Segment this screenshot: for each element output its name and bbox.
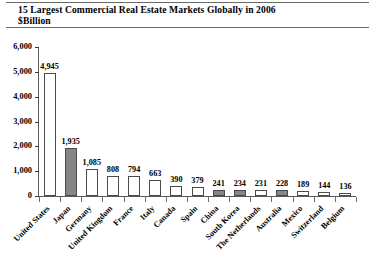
category-tick-mark: [208, 197, 209, 202]
y-axis-tick-mark: [35, 122, 39, 123]
bar: [170, 186, 182, 196]
bar: [65, 148, 77, 196]
bar: [128, 176, 140, 196]
category-label: Spain: [178, 204, 199, 225]
y-axis-tick-label: 0: [0, 192, 32, 200]
x-axis-line: [38, 196, 356, 197]
y-axis-tick-label: 2,000: [0, 142, 32, 150]
category-tick-mark: [335, 197, 336, 202]
category-tick-mark: [187, 197, 188, 202]
category-tick-mark: [60, 197, 61, 202]
category-tick-mark: [271, 197, 272, 202]
bar: [107, 176, 119, 196]
y-axis-tick-label: 5,000: [0, 68, 32, 76]
y-axis-tick-mark: [35, 97, 39, 98]
bar: [318, 192, 330, 196]
category-tick-mark: [102, 197, 103, 202]
y-axis-tick-label: 1,000: [0, 167, 32, 175]
category-label: United States: [12, 204, 51, 243]
category-tick-mark: [81, 197, 82, 202]
y-axis-tick-label: 4,000: [0, 93, 32, 101]
y-axis-tick-mark: [35, 47, 39, 48]
bar: [255, 190, 267, 196]
bar-value-label: 4,945: [33, 62, 67, 71]
category-tick-mark: [39, 197, 40, 202]
y-axis-tick-label: 6,000: [0, 43, 32, 51]
category-tick-mark: [124, 197, 125, 202]
bar: [44, 73, 56, 196]
bar: [213, 190, 225, 196]
y-axis-tick-mark: [35, 146, 39, 147]
bar: [297, 191, 309, 196]
y-axis-tick-label: 3,000: [0, 118, 32, 126]
category-tick-mark: [314, 197, 315, 202]
bar: [234, 190, 246, 196]
category-tick-mark: [356, 197, 357, 202]
category-tick-mark: [229, 197, 230, 202]
category-tick-mark: [166, 197, 167, 202]
y-axis-tick-mark: [35, 171, 39, 172]
chart-page: 15 Largest Commercial Real Estate Market…: [0, 0, 375, 271]
category-tick-mark: [293, 197, 294, 202]
chart-plot-area: 01,0002,0003,0004,0005,0006,000 4,9451,9…: [0, 0, 375, 271]
category-label: France: [112, 204, 136, 228]
bar: [276, 190, 288, 196]
bar: [339, 193, 351, 196]
category-tick-mark: [145, 197, 146, 202]
category-label: Canada: [152, 204, 178, 230]
bar-value-label: 1,935: [54, 137, 88, 146]
category-tick-mark: [250, 197, 251, 202]
bar-value-label: 136: [328, 182, 362, 191]
y-axis-tick-mark: [35, 72, 39, 73]
